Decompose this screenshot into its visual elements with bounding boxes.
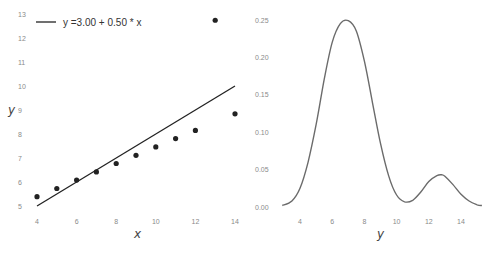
scatter-regression-plot: 5678910111213 468101214 y =3.00 + 0.50 *… (7, 6, 242, 241)
data-point (213, 18, 218, 23)
x-tick-label: 10 (393, 218, 401, 225)
x-tick-label: 14 (457, 218, 465, 225)
y-tick-label: 10 (18, 83, 26, 90)
data-point (74, 177, 79, 182)
y-tick-label: 12 (18, 35, 26, 42)
left-x-tick-labels: 468101214 (35, 218, 239, 225)
y-tick-label: 7 (18, 155, 22, 162)
x-tick-label: 6 (75, 218, 79, 225)
x-tick-label: 8 (114, 218, 118, 225)
y-tick-label: 0.25 (255, 17, 269, 24)
data-point (54, 186, 59, 191)
x-tick-label: 12 (425, 218, 433, 225)
x-tick-label: 8 (362, 218, 366, 225)
left-y-tick-labels: 5678910111213 (18, 11, 26, 210)
y-tick-label: 0.20 (255, 54, 269, 61)
x-tick-label: 6 (330, 218, 334, 225)
data-point (232, 111, 237, 116)
data-point (34, 194, 39, 199)
y-tick-label: 5 (18, 203, 22, 210)
y-tick-label: 0.05 (255, 166, 269, 173)
y-tick-label: 0.00 (255, 204, 269, 211)
data-point (94, 169, 99, 174)
right-y-tick-labels: 0.000.050.100.150.200.25 (255, 17, 269, 211)
right-x-tick-labels: 468101214 (298, 218, 465, 225)
x-tick-label: 14 (231, 218, 239, 225)
data-point (133, 153, 138, 158)
y-tick-label: 13 (18, 11, 26, 18)
data-point (153, 144, 158, 149)
x-tick-label: 4 (35, 218, 39, 225)
legend-label: y =3.00 + 0.50 * x (63, 17, 141, 28)
left-y-axis-label: y (7, 103, 16, 117)
x-tick-label: 10 (152, 218, 160, 225)
right-x-axis-label: y (376, 227, 385, 241)
y-tick-label: 8 (18, 131, 22, 138)
y-tick-label: 6 (18, 179, 22, 186)
right-plot-area (278, 6, 488, 212)
y-tick-label: 0.10 (255, 129, 269, 136)
figure: 5678910111213 468101214 y =3.00 + 0.50 *… (0, 0, 492, 253)
data-point (114, 161, 119, 166)
x-tick-label: 12 (192, 218, 200, 225)
y-tick-label: 11 (18, 59, 25, 66)
kde-plot: 0.000.050.100.150.200.25 468101214 y (255, 6, 488, 241)
left-plot-area (28, 6, 242, 212)
data-point (193, 128, 198, 133)
x-tick-label: 4 (298, 218, 302, 225)
data-point (173, 136, 178, 141)
y-tick-label: 9 (18, 107, 22, 114)
y-tick-label: 0.15 (255, 91, 269, 98)
left-x-axis-label: x (133, 227, 142, 241)
